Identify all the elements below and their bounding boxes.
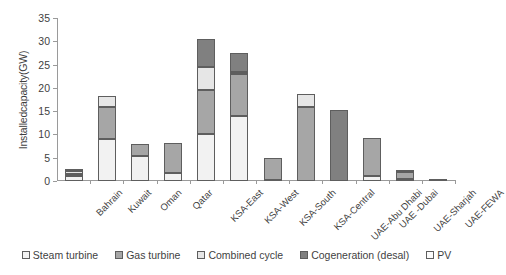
x-tick-mark [223, 180, 224, 184]
bar-segment [230, 72, 248, 74]
bar-stack [363, 18, 381, 181]
chart-legend: Steam turbineGas turbineCombined cycleCo… [0, 249, 473, 261]
bar-segment [65, 176, 83, 181]
x-tick-label: Oman [157, 187, 183, 213]
x-tick-mark [157, 180, 158, 184]
legend-swatch-icon [115, 251, 123, 259]
bar-stack [330, 18, 348, 181]
bar-stack [131, 18, 149, 181]
legend-item[interactable]: Steam turbine [22, 249, 98, 261]
y-tick-label: 0 [44, 176, 50, 187]
y-axis-line [57, 18, 58, 181]
x-tick-mark [455, 180, 456, 184]
x-tick-label: Kuwait [125, 187, 153, 215]
bar-stack [396, 18, 414, 181]
legend-label: PV [437, 249, 451, 261]
bar-segment [197, 90, 215, 134]
x-tick-mark [123, 180, 124, 184]
bar-segment [197, 67, 215, 90]
bar-segment [363, 176, 381, 181]
bar-segment [131, 156, 149, 181]
bar-segment [197, 39, 215, 67]
bar-segment [164, 143, 182, 172]
y-tick-mark [53, 18, 57, 19]
bar-segment [297, 107, 315, 182]
y-tick-label: 10 [38, 129, 50, 140]
y-tick-mark [53, 88, 57, 89]
legend-label: Combined cycle [208, 249, 283, 261]
legend-label: Cogeneration (desal) [311, 249, 409, 261]
bar-segment [297, 94, 315, 107]
bar-stack [197, 18, 215, 181]
bar-stack [164, 18, 182, 181]
y-tick-label: 35 [38, 13, 50, 24]
x-tick-mark [90, 180, 91, 184]
legend-item[interactable]: Gas turbine [115, 249, 180, 261]
legend-swatch-icon [22, 251, 30, 259]
bar-stack [297, 18, 315, 181]
y-tick-mark [53, 158, 57, 159]
bar-segment [65, 171, 83, 173]
legend-swatch-icon [300, 251, 308, 259]
legend-item[interactable]: PV [426, 249, 451, 261]
bar-segment [164, 173, 182, 181]
y-tick-label: 15 [38, 106, 50, 117]
x-tick-label: KSA-West [262, 187, 301, 226]
plot-area: 05101520253035 [57, 18, 455, 181]
bar-segment [230, 53, 248, 72]
legend-item[interactable]: Cogeneration (desal) [300, 249, 409, 261]
bar-segment [396, 179, 414, 181]
x-tick-mark [256, 180, 257, 184]
bar-segment [230, 116, 248, 181]
x-tick-mark [322, 180, 323, 184]
y-tick-label: 20 [38, 83, 50, 94]
y-tick-label: 30 [38, 36, 50, 47]
bar-segment [363, 138, 381, 176]
bar-segment [396, 172, 414, 179]
bar-segment [230, 74, 248, 116]
x-tick-mark [289, 180, 290, 184]
x-tick-label: KSA-South [296, 187, 337, 228]
y-tick-mark [53, 41, 57, 42]
legend-label: Gas turbine [126, 249, 180, 261]
bar-segment [396, 170, 414, 172]
bar-segment [65, 174, 83, 176]
bar-segment [330, 110, 348, 181]
bar-segment [131, 144, 149, 156]
x-tick-label: Bahrain [93, 187, 124, 218]
x-tick-mark [190, 180, 191, 184]
y-axis-title: Installedcapacity(GW) [17, 15, 29, 185]
bar-segment [264, 158, 282, 179]
bar-segment [98, 107, 116, 140]
bar-segment [65, 169, 83, 171]
bar-stack [264, 18, 282, 181]
bar-segment [197, 134, 215, 181]
x-tick-mark [389, 180, 390, 184]
x-tick-label: Qatar [190, 187, 215, 212]
y-tick-mark [53, 134, 57, 135]
bar-stack [230, 18, 248, 181]
x-tick-mark [422, 180, 423, 184]
y-tick-mark [53, 181, 57, 182]
bar-stack [65, 18, 83, 181]
y-tick-mark [53, 65, 57, 66]
bar-segment [98, 96, 116, 107]
legend-label: Steam turbine [33, 249, 98, 261]
x-tick-mark [356, 180, 357, 184]
x-tick-label: KSA-Central [331, 187, 376, 232]
legend-swatch-icon [426, 251, 434, 259]
bar-stack [429, 18, 447, 181]
bar-segment [429, 179, 447, 181]
bar-segment [98, 139, 116, 181]
y-tick-label: 5 [44, 152, 50, 163]
x-tick-label: KSA-East [228, 187, 265, 224]
y-tick-label: 25 [38, 59, 50, 70]
y-tick-mark [53, 111, 57, 112]
legend-swatch-icon [197, 251, 205, 259]
bar-stack [98, 18, 116, 181]
legend-item[interactable]: Combined cycle [197, 249, 283, 261]
